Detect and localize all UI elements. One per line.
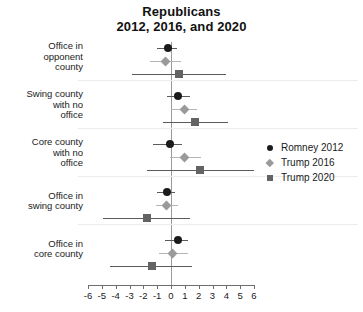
- x-axis-tick: [171, 285, 172, 289]
- x-axis-tick: [240, 285, 241, 289]
- point-estimate-marker: [143, 214, 151, 222]
- x-axis-tick: [185, 285, 186, 289]
- y-axis-label-line: swing county: [0, 201, 83, 212]
- y-axis-label-line: office: [0, 158, 83, 169]
- y-axis-label-line: office: [0, 110, 83, 121]
- x-axis-tick: [157, 285, 158, 289]
- x-axis-tick: [143, 285, 144, 289]
- y-axis-label: Office inopponentcounty: [0, 41, 83, 73]
- forest-plot-figure: Republicans 2012, 2016, and 2020 Office …: [0, 0, 363, 312]
- point-estimate-marker: [175, 70, 183, 78]
- legend-item[interactable]: Trump 2020: [267, 170, 363, 185]
- point-estimate-marker: [196, 166, 204, 174]
- gridline: [78, 128, 358, 129]
- legend-item-label: Trump 2020: [281, 170, 335, 185]
- point-estimate-marker: [191, 118, 199, 126]
- y-axis-label: Office incore county: [0, 239, 83, 260]
- chart-title: Republicans 2012, 2016, and 2020: [0, 4, 363, 34]
- y-axis-label: Core countywith nooffice: [0, 137, 83, 169]
- legend-item-label: Romney 2012: [281, 140, 343, 155]
- y-axis-label: Office inswing county: [0, 191, 83, 212]
- y-axis-label-line: county: [0, 62, 83, 73]
- legend-item[interactable]: Trump 2016: [267, 155, 363, 170]
- x-axis-tick: [102, 285, 103, 289]
- gridline: [78, 224, 358, 225]
- diamond-marker-icon: [266, 159, 274, 167]
- legend: Romney 2012Trump 2016Trump 2020: [267, 140, 363, 185]
- point-estimate-marker: [174, 236, 182, 244]
- legend-item-label: Trump 2016: [281, 155, 335, 170]
- point-estimate-marker: [163, 188, 171, 196]
- x-axis-tick-label: 6: [244, 290, 264, 301]
- point-estimate-marker: [167, 248, 177, 258]
- chart-title-line-2: 2012, 2016, and 2020: [0, 19, 363, 34]
- point-estimate-marker: [166, 140, 174, 148]
- point-estimate-marker: [148, 262, 156, 270]
- x-axis-tick: [130, 285, 131, 289]
- legend-item[interactable]: Romney 2012: [267, 140, 363, 155]
- square-marker-icon: [267, 175, 273, 181]
- chart-title-line-1: Republicans: [0, 4, 363, 19]
- x-axis-tick: [199, 285, 200, 289]
- x-axis-tick: [88, 285, 89, 289]
- gridline: [78, 80, 358, 81]
- x-axis-tick: [213, 285, 214, 289]
- point-estimate-marker: [180, 152, 190, 162]
- point-estimate-marker: [174, 92, 182, 100]
- y-axis-labels: Office inopponentcountySwing countywith …: [0, 42, 83, 285]
- circle-marker-icon: [267, 145, 273, 151]
- x-axis-tick: [254, 285, 255, 289]
- y-axis-label-line: core county: [0, 249, 83, 260]
- x-axis-tick: [226, 285, 227, 289]
- point-estimate-marker: [161, 56, 171, 66]
- plot-area: [88, 42, 254, 285]
- x-axis-tick: [116, 285, 117, 289]
- point-estimate-marker: [180, 104, 190, 114]
- y-axis-label: Swing countywith nooffice: [0, 89, 83, 121]
- x-axis: -6-5-4-3-2-10123456: [88, 285, 254, 309]
